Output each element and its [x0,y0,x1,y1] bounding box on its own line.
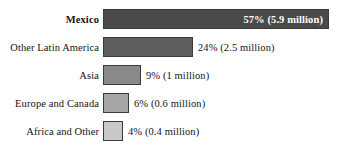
chart-row: Other Latin America 24% (2.5 million) [0,37,340,57]
category-label-other-latin-america: Other Latin America [0,42,103,53]
bar-africa-and-other [103,121,123,141]
horizontal-bar-chart: Mexico 57% (5.9 million) Other Latin Ame… [0,0,340,157]
bar-value-label-africa-and-other: 4% (0.4 million) [123,126,199,137]
chart-row: Mexico 57% (5.9 million) [0,9,340,29]
chart-row: Africa and Other 4% (0.4 million) [0,121,340,141]
bar-value-label-mexico: 57% (5.9 million) [243,14,328,25]
category-label-africa-and-other: Africa and Other [0,126,103,137]
bar-area: 4% (0.4 million) [103,121,340,141]
bar-mexico: 57% (5.9 million) [103,9,329,29]
category-label-europe-and-canada: Europe and Canada [0,98,103,109]
bar-area: 6% (0.6 million) [103,93,340,113]
bar-europe-and-canada [103,93,129,113]
bar-area: 57% (5.9 million) [103,9,340,29]
chart-row: Asia 9% (1 million) [0,65,340,85]
category-label-mexico: Mexico [0,14,103,25]
bar-area: 9% (1 million) [103,65,340,85]
bar-value-label-asia: 9% (1 million) [141,70,209,81]
chart-row: Europe and Canada 6% (0.6 million) [0,93,340,113]
bar-area: 24% (2.5 million) [103,37,340,57]
bar-asia [103,65,141,85]
bar-value-label-other-latin-america: 24% (2.5 million) [193,42,275,53]
bar-value-label-europe-and-canada: 6% (0.6 million) [129,98,205,109]
category-label-asia: Asia [0,70,103,81]
bar-other-latin-america [103,37,193,57]
